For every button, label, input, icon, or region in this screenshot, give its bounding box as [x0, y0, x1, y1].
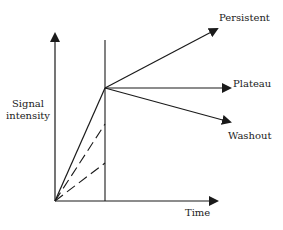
- x-axis-label: Time: [185, 207, 210, 219]
- signal-intensity-diagram: Signal intensity Time Persistent Plateau…: [0, 0, 283, 230]
- y-axis-label-line2: intensity: [6, 110, 50, 122]
- initial-rise-dashed-lower: [55, 163, 105, 201]
- y-axis-label: Signal intensity: [6, 98, 50, 122]
- initial-rise-dashed-upper: [55, 124, 105, 201]
- washout-curve: [105, 88, 230, 122]
- persistent-label: Persistent: [219, 12, 270, 24]
- y-axis-label-line1: Signal: [6, 98, 50, 110]
- washout-label: Washout: [228, 130, 271, 142]
- plateau-label: Plateau: [233, 78, 271, 90]
- initial-rise-solid: [55, 88, 105, 201]
- persistent-curve: [105, 29, 217, 88]
